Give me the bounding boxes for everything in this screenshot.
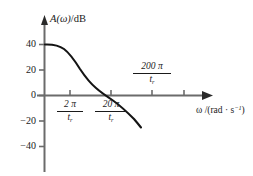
x-axis-title-close: ) xyxy=(242,105,245,115)
y-axis-title-main: A(ω) xyxy=(50,13,71,24)
y-axis-title-unit: /dB xyxy=(71,13,86,24)
y-tick-label-40: 40 xyxy=(16,39,36,49)
y-tick-label-0: 0 xyxy=(16,90,36,100)
fraction-numerator: 2 π xyxy=(57,100,83,112)
plot-canvas xyxy=(0,0,253,176)
x-axis-title-exponent: −1 xyxy=(234,104,241,111)
x-tick-label-2pi-over-tr: 2 π tr xyxy=(57,100,83,123)
y-axis-arrowhead xyxy=(41,15,48,25)
fraction-denominator: tr xyxy=(57,112,83,123)
bode-magnitude-figure: 40 20 0 −20 −40 A(ω)/dB ω /(rad · s−1) 2… xyxy=(0,0,253,176)
fraction-numerator: 200 π xyxy=(133,62,171,74)
x-axis-arrowhead xyxy=(202,91,213,100)
fraction-denominator: tr xyxy=(133,74,171,85)
y-tick-label-20: 20 xyxy=(16,65,36,75)
x-tick-label-20pi-over-tr: 20 π tr xyxy=(95,100,127,123)
x-axis-title: ω /(rad · s−1) xyxy=(196,106,245,116)
fraction-denominator: tr xyxy=(95,112,127,123)
y-tick-label-minus-40: −40 xyxy=(10,141,36,151)
fraction-numerator: 20 π xyxy=(95,100,127,112)
y-tick-label-minus-20: −20 xyxy=(10,116,36,126)
y-axis-title: A(ω)/dB xyxy=(50,14,86,25)
x-axis-title-text: ω /(rad · s xyxy=(196,105,234,115)
x-tick-label-200pi-over-tr: 200 π tr xyxy=(133,62,171,85)
